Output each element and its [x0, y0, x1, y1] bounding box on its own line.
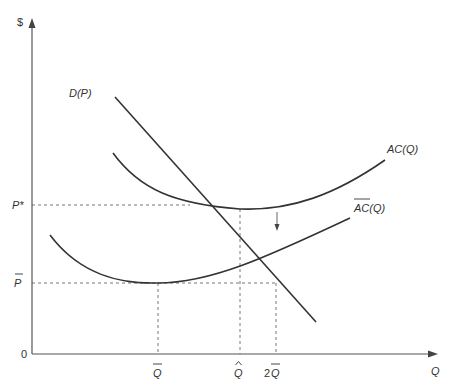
origin-label: 0	[21, 348, 27, 360]
p-bar-label: P	[14, 274, 23, 289]
ac-curve	[113, 153, 385, 209]
axes	[29, 18, 439, 358]
y-axis-arrow-icon	[29, 18, 36, 28]
p-star-label: P*	[12, 199, 24, 211]
demand-label: D(P)	[69, 87, 92, 99]
y-axis-label: $	[17, 16, 23, 28]
guide-lines	[32, 205, 276, 354]
svg-text:Q: Q	[234, 367, 243, 379]
ac-bar-label: AC(Q)	[353, 199, 386, 214]
demand-curve	[115, 97, 316, 322]
x-axis-label: Q	[431, 365, 440, 377]
shift-arrow	[275, 212, 280, 231]
x-axis-arrow-icon	[428, 351, 438, 358]
q-bar-label: Q	[153, 364, 162, 379]
svg-text:Q: Q	[271, 367, 280, 379]
ac-label: AC(Q)	[386, 143, 419, 155]
economics-diagram: $ Q 0 P* P Q Q 2 Q D(P) AC(Q) AC(Q)	[0, 0, 452, 386]
svg-text:P: P	[14, 277, 22, 289]
svg-text:AC(Q): AC(Q)	[353, 202, 386, 214]
arrow-down-icon	[275, 224, 280, 231]
ac-bar-curve	[50, 218, 350, 283]
q-hat-label: Q	[234, 362, 243, 380]
svg-text:2: 2	[264, 367, 270, 379]
svg-text:Q: Q	[153, 367, 162, 379]
two-q-bar-label: 2 Q	[264, 364, 280, 379]
